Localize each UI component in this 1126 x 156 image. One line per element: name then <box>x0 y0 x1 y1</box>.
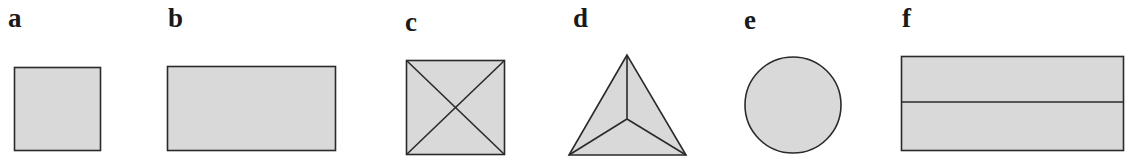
shape-b-rectangle <box>168 67 336 151</box>
shape-d-triangle <box>569 55 686 155</box>
shape-a-square <box>15 68 101 151</box>
shapes-figure: a b c d e f <box>0 0 1126 156</box>
shapes-canvas <box>0 0 1126 156</box>
shape-f-divided-rectangle <box>902 57 1124 151</box>
shape-e-circle <box>745 57 841 153</box>
shape-c-square-diagonals <box>407 61 505 155</box>
